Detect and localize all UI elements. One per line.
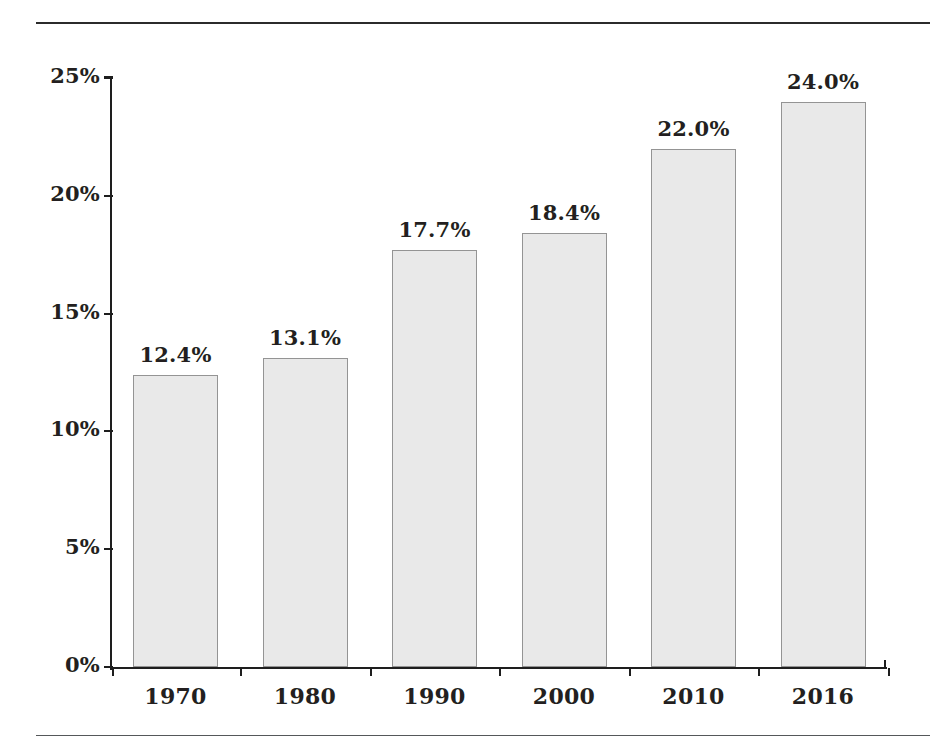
bar-value-label: 17.7% (367, 217, 502, 242)
x-axis-end-cap (884, 660, 886, 669)
bar-value-label: 24.0% (756, 69, 891, 94)
y-axis-tick-label: 20% (30, 181, 100, 206)
y-axis-tick-label: 15% (30, 299, 100, 324)
bar-value-label: 12.4% (108, 342, 243, 367)
y-axis-tick-label: 5% (30, 534, 100, 559)
x-axis-tick (888, 668, 890, 676)
x-axis-tick (370, 668, 372, 676)
y-axis-line (110, 76, 112, 670)
y-axis-tick (104, 430, 113, 432)
bar (263, 358, 348, 667)
y-axis-tick-label: 10% (30, 416, 100, 441)
bar (392, 250, 477, 667)
x-axis-tick (758, 668, 760, 676)
x-axis-tick-label: 1970 (108, 683, 243, 709)
y-axis-tick (104, 548, 113, 550)
x-axis-tick-label: 2010 (626, 683, 761, 709)
y-axis-tick-label: 25% (30, 63, 100, 88)
bar (133, 375, 218, 667)
bar-chart: 0%5%10%15%20%25% 12.4%13.1%17.7%18.4%22.… (0, 0, 952, 745)
bar (522, 233, 607, 667)
x-axis-tick-label: 2000 (497, 683, 632, 709)
y-axis-tick (104, 313, 113, 315)
y-axis-tick (104, 195, 113, 197)
x-axis-tick (629, 668, 631, 676)
bar (781, 102, 866, 667)
y-axis-tick (104, 77, 113, 79)
bar-value-label: 18.4% (497, 200, 632, 225)
y-axis-tick-label: 0% (30, 652, 100, 677)
bar-value-label: 22.0% (626, 116, 761, 141)
x-axis-tick-label: 1980 (238, 683, 373, 709)
x-axis-tick-label: 1990 (367, 683, 502, 709)
x-axis-tick (112, 668, 114, 676)
bar (651, 149, 736, 667)
bar-value-label: 13.1% (238, 325, 373, 350)
x-axis-tick (499, 668, 501, 676)
x-axis-tick (240, 668, 242, 676)
x-axis-tick-label: 2016 (756, 683, 891, 709)
chart-page: 0%5%10%15%20%25% 12.4%13.1%17.7%18.4%22.… (0, 0, 952, 745)
